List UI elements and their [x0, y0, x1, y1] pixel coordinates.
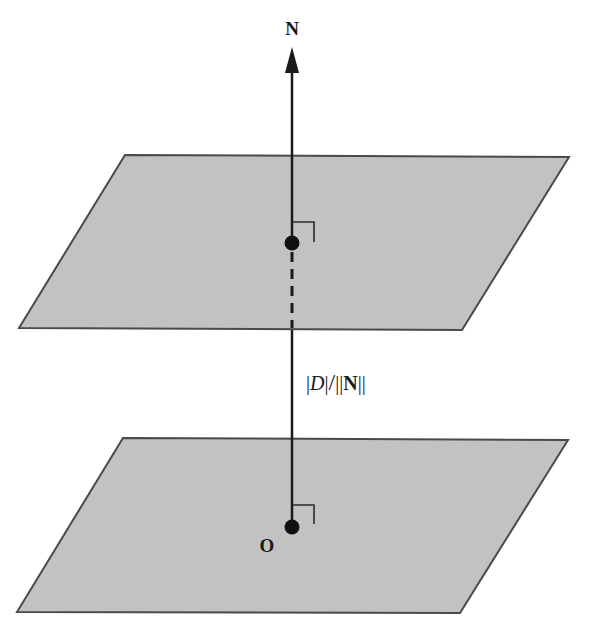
arrowhead-icon	[285, 47, 299, 73]
distance-n: N	[343, 372, 358, 394]
planes-distance-diagram: N O |D|/||N||	[0, 0, 589, 637]
norm-bars-left: ||	[335, 372, 343, 395]
distance-label: |D|/||N||	[306, 369, 366, 395]
distance-d: D	[309, 372, 325, 394]
origin-point	[285, 520, 300, 535]
normal-vector-label: N	[285, 18, 299, 39]
origin-label: O	[260, 535, 275, 556]
norm-bars-right: ||	[358, 372, 366, 395]
svg-text:|D|/||N||: |D|/||N||	[306, 369, 366, 395]
upper-intersection-point	[285, 236, 300, 251]
